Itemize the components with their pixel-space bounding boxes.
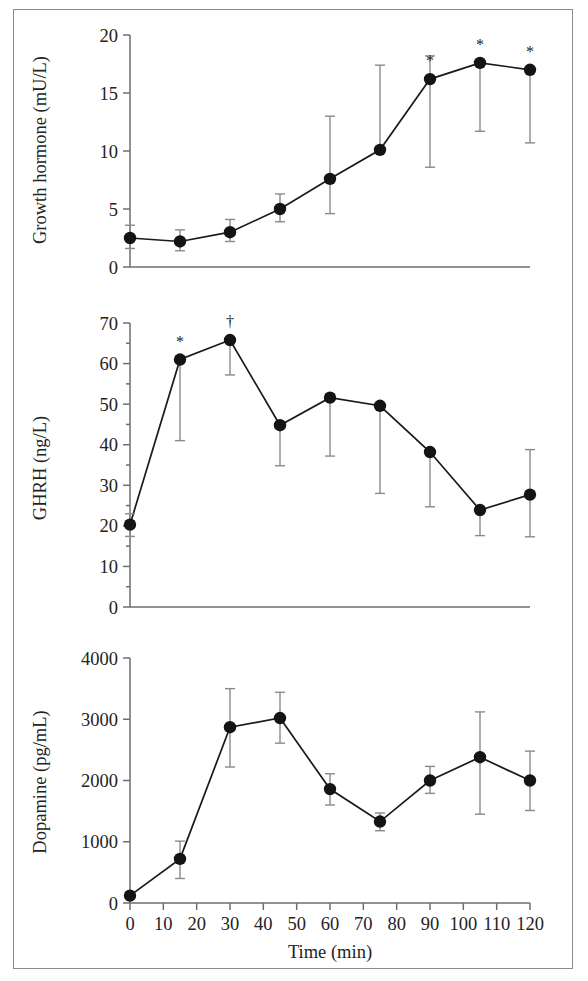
x-tick-label-7: 70 [354, 914, 373, 934]
data-point-a-0 [124, 232, 136, 244]
figure-root: 05101520Growth hormone (mU/L)***01020304… [0, 0, 588, 981]
data-point-b-3 [274, 419, 286, 431]
data-point-c-4 [324, 783, 336, 795]
y-tick-label-b-0: 0 [109, 598, 118, 618]
data-point-a-2 [224, 226, 236, 238]
significance-marker-b-0: * [176, 333, 184, 350]
series-line-c [130, 718, 530, 896]
panel-a: 05101520Growth hormone (mU/L)*** [30, 26, 536, 278]
significance-marker-a-1: * [476, 36, 484, 53]
y-axis-title-b: GHRH (ng/L) [30, 416, 51, 520]
data-point-b-4 [324, 391, 336, 403]
x-tick-label-5: 50 [287, 914, 306, 934]
y-tick-label-c-4: 4000 [81, 649, 118, 669]
y-tick-label-a-4: 20 [100, 26, 119, 46]
data-point-c-7 [474, 751, 486, 763]
y-tick-label-b-2: 20 [100, 516, 119, 536]
y-axis-title-a: Growth hormone (mU/L) [30, 56, 51, 244]
y-tick-label-b-7: 70 [100, 314, 119, 334]
data-point-c-6 [424, 774, 436, 786]
x-tick-label-3: 30 [221, 914, 240, 934]
x-tick-label-9: 90 [421, 914, 440, 934]
y-tick-label-c-3: 3000 [81, 710, 118, 730]
data-point-c-3 [274, 712, 286, 724]
x-tick-label-8: 80 [387, 914, 406, 934]
data-point-c-8 [524, 774, 536, 786]
significance-marker-a-2: * [526, 43, 534, 60]
x-tick-label-11: 110 [483, 914, 510, 934]
y-tick-label-b-3: 30 [100, 476, 119, 496]
y-axis-title-c: Dopamine (pg/mL) [30, 710, 51, 853]
data-point-a-8 [524, 64, 536, 76]
x-tick-label-6: 60 [321, 914, 340, 934]
data-point-a-6 [424, 73, 436, 85]
significance-marker-a-0: * [426, 52, 434, 69]
data-point-b-0 [124, 518, 136, 530]
x-tick-label-1: 10 [154, 914, 173, 934]
x-tick-label-12: 120 [516, 914, 544, 934]
data-point-a-7 [474, 57, 486, 69]
y-tick-label-c-1: 1000 [81, 832, 118, 852]
data-point-b-6 [424, 446, 436, 458]
x-axis-title: Time (min) [288, 942, 372, 963]
y-tick-label-b-4: 40 [100, 435, 119, 455]
data-point-b-8 [524, 488, 536, 500]
y-tick-label-c-0: 0 [109, 894, 118, 914]
y-tick-label-a-1: 5 [109, 200, 118, 220]
y-tick-label-c-2: 2000 [81, 771, 118, 791]
data-point-b-1 [174, 353, 186, 365]
y-tick-label-b-6: 60 [100, 354, 119, 374]
y-tick-label-a-3: 15 [100, 84, 119, 104]
data-point-c-5 [374, 815, 386, 827]
data-point-b-7 [474, 504, 486, 516]
panel-b: 010203040506070GHRH (ng/L)*† [30, 313, 536, 617]
y-tick-label-a-2: 10 [100, 142, 119, 162]
data-point-a-5 [374, 144, 386, 156]
data-point-b-2 [224, 334, 236, 346]
x-tick-label-10: 100 [449, 914, 477, 934]
y-tick-label-b-1: 10 [100, 557, 119, 577]
data-point-b-5 [374, 400, 386, 412]
data-point-c-2 [224, 721, 236, 733]
data-point-a-4 [324, 173, 336, 185]
significance-marker-b-1: † [226, 313, 234, 330]
x-tick-label-0: 0 [125, 914, 134, 934]
y-tick-label-a-0: 0 [109, 258, 118, 278]
data-point-c-1 [174, 853, 186, 865]
data-point-a-3 [274, 203, 286, 215]
y-tick-label-b-5: 50 [100, 395, 119, 415]
x-tick-label-2: 20 [187, 914, 206, 934]
data-point-a-1 [174, 235, 186, 247]
chart-canvas: 05101520Growth hormone (mU/L)***01020304… [0, 0, 588, 981]
panel-c: 0100020003000400001020304050607080901001… [30, 649, 544, 964]
x-tick-label-4: 40 [254, 914, 273, 934]
data-point-c-0 [124, 889, 136, 901]
